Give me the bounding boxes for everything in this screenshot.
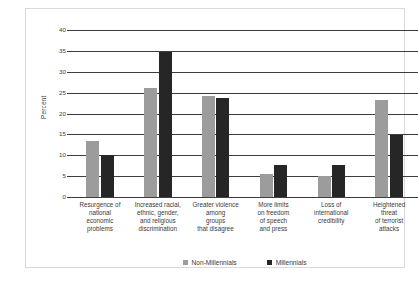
category-label-line: among <box>188 209 244 217</box>
y-tick-mark-35 <box>67 51 71 52</box>
category-label-line: national <box>72 209 128 217</box>
x-axis-category-label: Heightenedthreatof terroristattacks <box>360 201 418 253</box>
x-axis-category-label: Resurgence ofnationaleconomicproblems <box>71 201 129 253</box>
y-axis-tick-labels: 0510152025303540 <box>50 9 66 283</box>
legend-item-millennials[interactable]: Millennials <box>267 259 307 266</box>
y-tick-label-30: 30 <box>59 69 66 75</box>
x-axis-category-label: Greater violenceamonggroupsthat disagree <box>187 201 245 253</box>
y-tick-mark-30 <box>67 72 71 73</box>
gridline-40 <box>71 30 418 31</box>
x-axis-category-label: Loss ofinternationalcredibility <box>302 201 360 253</box>
category-label-line: groups <box>188 217 244 225</box>
category-label-line: Greater violence <box>188 201 244 209</box>
x-axis-category-label: Increased racial,ethnic, gender,and reli… <box>129 201 187 253</box>
category-label-line: and press <box>245 225 301 233</box>
y-tick-label-20: 20 <box>59 111 66 117</box>
gridline-15 <box>71 134 418 135</box>
bar <box>101 155 114 197</box>
bar <box>144 88 157 197</box>
bar <box>318 176 331 197</box>
gridline-25 <box>71 93 418 94</box>
x-axis-line <box>71 197 418 198</box>
x-axis-category-labels: Resurgence ofnationaleconomicproblemsInc… <box>71 201 418 253</box>
category-label-line: problems <box>72 225 128 233</box>
category-label-line: discrimination <box>130 225 186 233</box>
gridline-5 <box>71 176 418 177</box>
y-tick-mark-20 <box>67 114 71 115</box>
category-label-line: Loss of <box>303 201 359 209</box>
gridline-35 <box>71 51 418 52</box>
category-label-line: More limits <box>245 201 301 209</box>
category-label-line: on freedom <box>245 209 301 217</box>
gridline-20 <box>71 114 418 115</box>
legend-swatch-icon <box>267 260 272 265</box>
bar <box>274 165 287 197</box>
y-tick-label-25: 25 <box>59 90 66 96</box>
category-label-line: of terrorist <box>361 217 417 225</box>
bar <box>216 98 229 197</box>
bar <box>159 52 172 197</box>
plot-area <box>71 30 418 197</box>
y-tick-label-15: 15 <box>59 131 66 137</box>
y-tick-label-35: 35 <box>59 48 66 54</box>
y-tick-mark-40 <box>67 30 71 31</box>
y-tick-label-0: 0 <box>63 194 66 200</box>
category-label-line: of speech <box>245 217 301 225</box>
y-tick-label-40: 40 <box>59 27 66 33</box>
category-label-line: attacks <box>361 225 417 233</box>
chart-frame: Percent 0510152025303540 Resurgence ofna… <box>25 8 405 268</box>
bar <box>390 135 403 197</box>
chart-legend: Non-MillennialsMillennials <box>71 259 418 266</box>
y-axis-title: Percent <box>41 77 47 137</box>
y-tick-label-10: 10 <box>59 152 66 158</box>
legend-label: Millennials <box>276 259 307 266</box>
y-tick-label-5: 5 <box>63 173 66 179</box>
legend-swatch-icon <box>183 260 188 265</box>
x-axis-category-label: More limitson freedomof speechand press <box>244 201 302 253</box>
gridline-30 <box>71 72 418 73</box>
gridline-10 <box>71 155 418 156</box>
bar <box>332 165 345 197</box>
category-label-line: threat <box>361 209 417 217</box>
bar <box>260 174 273 197</box>
category-label-line: Increased racial, <box>130 201 186 209</box>
category-label-line: international <box>303 209 359 217</box>
category-label-line: credibility <box>303 217 359 225</box>
y-tick-mark-25 <box>67 93 71 94</box>
legend-label: Non-Millennials <box>192 259 237 266</box>
bar <box>375 100 388 197</box>
category-label-line: economic <box>72 217 128 225</box>
y-tick-mark-15 <box>67 134 71 135</box>
bar <box>202 96 215 197</box>
category-label-line: and religious <box>130 217 186 225</box>
legend-item-non-millennials[interactable]: Non-Millennials <box>183 259 237 266</box>
category-label-line: that disagree <box>188 225 244 233</box>
y-tick-mark-10 <box>67 155 71 156</box>
category-label-line: Heightened <box>361 201 417 209</box>
category-label-line: Resurgence of <box>72 201 128 209</box>
y-tick-mark-5 <box>67 176 71 177</box>
category-label-line: ethnic, gender, <box>130 209 186 217</box>
bar <box>86 141 99 197</box>
